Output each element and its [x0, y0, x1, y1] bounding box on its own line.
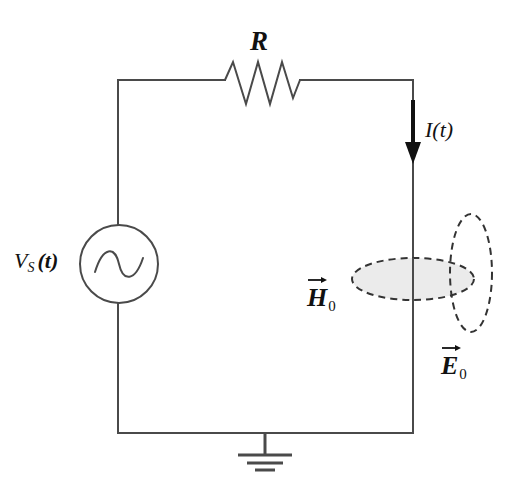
e-field-label-stack: E: [441, 351, 458, 381]
ground-symbol: [238, 433, 292, 470]
vector-arrow-icon: [308, 274, 327, 283]
current-arrow: [405, 100, 421, 164]
h-field-label-subscript: 0: [328, 298, 336, 314]
resistor-label: R: [250, 28, 268, 55]
e-field-label-subscript: 0: [459, 366, 467, 382]
voltage-source-label-main: V: [14, 248, 27, 273]
circuit-svg: [0, 0, 511, 493]
e-field-label-glyph: E: [441, 351, 458, 380]
ac-voltage-source: [80, 225, 158, 303]
resistor-zigzag: [225, 62, 300, 104]
voltage-source-label: VS(t): [14, 250, 58, 275]
vector-arrow-icon: [442, 342, 461, 351]
h-field-label-stack: H: [307, 283, 327, 313]
e-field-label: E0: [441, 351, 467, 383]
current-label: I(t): [425, 119, 453, 141]
circuit-diagram: R VS(t) I(t) H0 E0: [0, 0, 511, 493]
h-field-label-glyph: H: [307, 283, 327, 312]
voltage-source-label-subscript: S: [27, 260, 34, 275]
h-field-label: H0: [307, 283, 336, 315]
circuit-wires: [118, 80, 413, 433]
voltage-source-label-argument: (t): [37, 248, 58, 273]
current-arrow-head: [405, 142, 421, 164]
